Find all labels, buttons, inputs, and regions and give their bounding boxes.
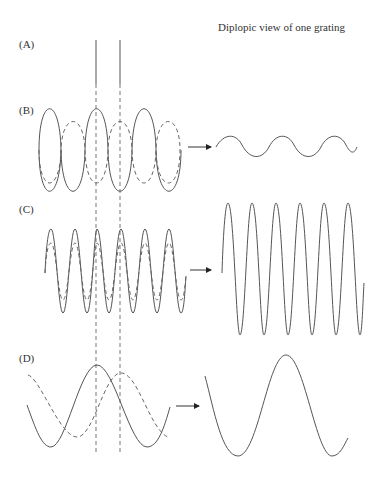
panel-c-output-wave [222,203,364,335]
panel-b-input-waves [39,109,181,192]
diagram-canvas [0,0,380,479]
panel-b-output-wave [216,136,357,156]
panel-c-input-waves [45,229,186,313]
panel-d-input-waves [27,365,170,447]
panel-d-output-wave [205,355,348,456]
panel-a-lines [96,40,120,452]
